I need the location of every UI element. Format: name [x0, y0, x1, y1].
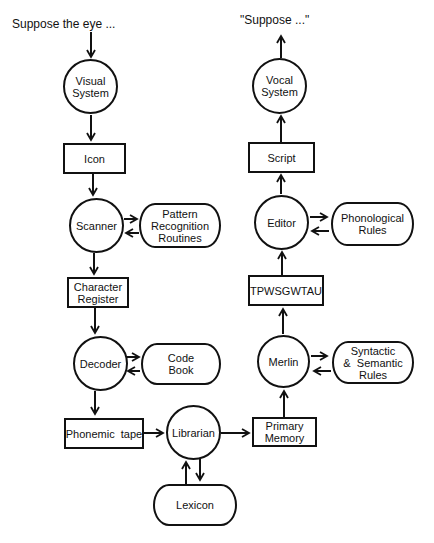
- node-icon-label: Icon: [84, 153, 105, 165]
- node-phonemic-tape: Phonemic tape: [64, 418, 144, 449]
- node-editor-label: Editor: [267, 217, 296, 229]
- node-librarian-label: Librarian: [172, 427, 215, 439]
- node-pattern-recognition: Pattern Recognition Routines: [139, 203, 221, 248]
- input-caption: Suppose the eye ...: [12, 17, 115, 31]
- node-pattern-recognition-label: Pattern Recognition Routines: [151, 208, 209, 244]
- node-phonological-rules: Phonological Rules: [331, 202, 414, 246]
- node-character-register-label: Character Register: [74, 281, 122, 305]
- node-character-register: Character Register: [67, 277, 129, 308]
- node-tpwsgwtau-label: TPWSGWTAU: [250, 285, 322, 297]
- node-primary-memory: Primary Memory: [252, 417, 317, 447]
- node-editor: Editor: [254, 195, 309, 250]
- node-script-label: Script: [267, 152, 295, 164]
- node-primary-memory-label: Primary Memory: [265, 420, 305, 444]
- node-decoder: Decoder: [73, 336, 128, 391]
- node-lexicon-label: Lexicon: [176, 499, 214, 511]
- node-scanner-label: Scanner: [76, 220, 117, 232]
- node-icon: Icon: [63, 143, 126, 174]
- node-vocal-system: Vocal System: [252, 58, 307, 114]
- node-phonological-rules-label: Phonological Rules: [341, 212, 404, 236]
- node-merlin-label: Merlin: [269, 356, 299, 368]
- node-vocal-system-label: Vocal System: [261, 74, 298, 98]
- output-caption: "Suppose ...": [240, 13, 309, 27]
- node-script: Script: [248, 142, 315, 173]
- node-lexicon: Lexicon: [153, 484, 237, 526]
- node-phonemic-tape-label: Phonemic tape: [66, 428, 142, 440]
- node-librarian: Librarian: [166, 405, 221, 460]
- node-visual-system: Visual System: [63, 59, 118, 114]
- node-code-book-label: Code Book: [168, 352, 194, 376]
- node-tpwsgwtau: TPWSGWTAU: [248, 275, 324, 306]
- node-syntactic-semantic-rules: Syntactic & Semantic Rules: [332, 341, 414, 384]
- node-visual-system-label: Visual System: [72, 75, 109, 99]
- node-code-book: Code Book: [141, 343, 221, 385]
- node-merlin: Merlin: [257, 335, 310, 388]
- node-scanner: Scanner: [69, 198, 124, 253]
- node-syntactic-semantic-rules-label: Syntactic & Semantic Rules: [343, 345, 402, 381]
- node-decoder-label: Decoder: [80, 358, 122, 370]
